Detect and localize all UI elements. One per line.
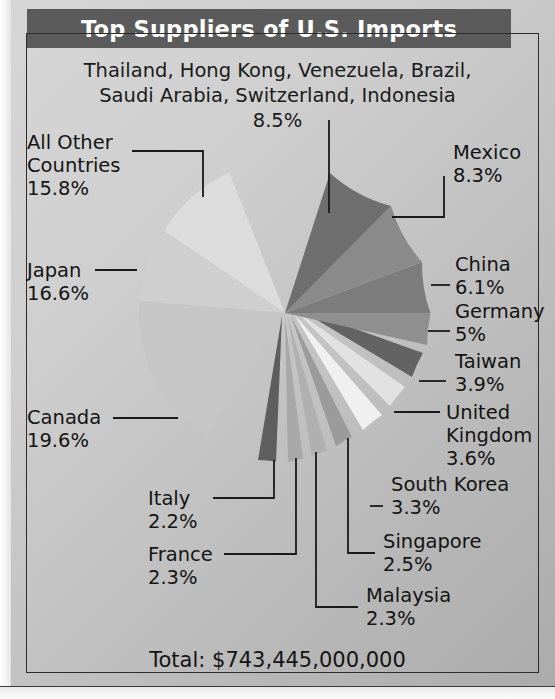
label-united-kingdom-line2: Kingdom: [446, 424, 532, 447]
label-italy: Italy 2.2%: [148, 487, 198, 533]
label-germany: Germany 5%: [455, 300, 545, 346]
label-canada: Canada 19.6%: [27, 406, 101, 452]
label-south-korea-name: South Korea: [391, 473, 509, 496]
label-malaysia-pct: 2.3%: [366, 607, 416, 630]
leader-all-other-countries: [132, 151, 203, 197]
chart-page: Top Suppliers of U.S. Imports Thailand, …: [0, 0, 555, 699]
leader-singapore: [348, 438, 375, 553]
label-united-kingdom-pct: 3.6%: [446, 447, 496, 470]
label-taiwan-name: Taiwan: [455, 350, 521, 373]
leader-italy: [213, 460, 274, 498]
label-germany-pct: 5%: [455, 323, 486, 346]
label-china: China 6.1%: [455, 253, 511, 299]
label-all-other-countries-line1: All Other: [27, 131, 113, 154]
label-taiwan-pct: 3.9%: [455, 373, 505, 396]
label-all-other-countries: All Other Countries 15.8%: [27, 131, 121, 200]
leader-france: [224, 458, 296, 554]
label-italy-name: Italy: [148, 487, 190, 510]
label-taiwan: Taiwan 3.9%: [455, 350, 521, 396]
label-mexico-name: Mexico: [453, 141, 521, 164]
label-singapore-name: Singapore: [383, 530, 481, 553]
total-label: Total: $743,445,000,000: [0, 648, 555, 672]
label-singapore-pct: 2.5%: [383, 553, 433, 576]
label-italy-pct: 2.2%: [148, 510, 198, 533]
leader-mexico: [392, 176, 444, 217]
label-japan: Japan 16.6%: [27, 259, 89, 305]
label-united-kingdom: United Kingdom 3.6%: [446, 401, 532, 470]
label-mexico: Mexico 8.3%: [453, 141, 521, 187]
label-china-pct: 6.1%: [455, 276, 505, 299]
label-canada-pct: 19.6%: [27, 429, 89, 452]
label-singapore: Singapore 2.5%: [383, 530, 481, 576]
label-japan-pct: 16.6%: [27, 282, 89, 305]
label-china-name: China: [455, 253, 511, 276]
slice-canada: [139, 301, 285, 436]
leader-malaysia: [316, 452, 358, 607]
label-malaysia: Malaysia 2.3%: [366, 584, 451, 630]
label-france-name: France: [148, 543, 213, 566]
label-south-korea-pct: 3.3%: [391, 496, 441, 519]
label-all-other-countries-line2: Countries: [27, 154, 121, 177]
pie-slices: [139, 173, 431, 463]
label-germany-name: Germany: [455, 300, 545, 323]
label-all-other-countries-pct: 15.8%: [27, 177, 89, 200]
label-mexico-pct: 8.3%: [453, 164, 503, 187]
label-united-kingdom-line1: United: [446, 401, 510, 424]
page-bottom-margin: [0, 686, 555, 699]
label-south-korea: South Korea 3.3%: [391, 473, 509, 519]
label-japan-name: Japan: [27, 259, 81, 282]
label-canada-name: Canada: [27, 406, 101, 429]
label-france: France 2.3%: [148, 543, 213, 589]
label-malaysia-name: Malaysia: [366, 584, 451, 607]
label-france-pct: 2.3%: [148, 566, 198, 589]
